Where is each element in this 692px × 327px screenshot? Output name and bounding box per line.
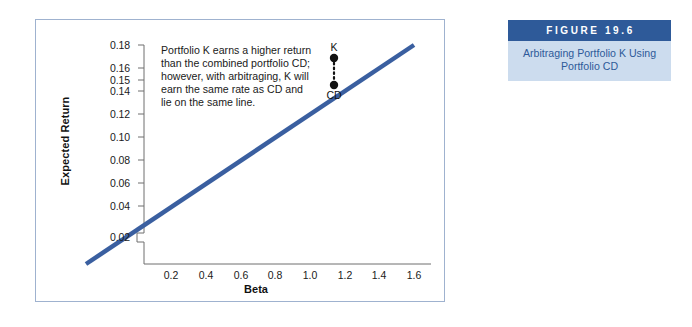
xtick-label-3: 0.8 [260, 269, 290, 281]
data-point-cd[interactable] [330, 81, 338, 89]
xtick-label-7: 1.6 [399, 269, 429, 281]
xtick-label-1: 0.4 [191, 269, 221, 281]
y-axis-title: Expected Return [59, 86, 71, 196]
ytick-label-9: 0.02 [96, 231, 130, 243]
ytick-label-7: 0.06 [96, 177, 130, 189]
xtick-label-0: 0.2 [156, 269, 186, 281]
x-axis-title: Beta [196, 283, 316, 295]
xtick-label-5: 1.2 [330, 269, 360, 281]
xtick-label-4: 1.0 [295, 269, 325, 281]
ytick-label-5: 0.10 [96, 131, 130, 143]
ytick-label-8: 0.04 [96, 200, 130, 212]
ytick-label-1: 0.16 [96, 62, 130, 74]
ytick-label-4: 0.12 [96, 108, 130, 120]
xtick-label-2: 0.6 [226, 269, 256, 281]
figure-caption-card: FIGURE 19.6 Arbitraging Portfolio K Usin… [508, 20, 671, 81]
figure-number-header: FIGURE 19.6 [508, 20, 671, 41]
chart-annotation: Portfolio K earns a higher return than t… [161, 44, 313, 109]
ytick-label-3: 0.14 [96, 85, 130, 97]
y-axis-ticks [138, 45, 144, 206]
y-axis-break-mark [137, 233, 144, 264]
chart-panel: 0.18 0.16 0.15 0.14 0.12 0.10 0.08 0.06 … [35, 19, 445, 302]
data-point-k[interactable] [330, 54, 338, 62]
ytick-label-6: 0.08 [96, 154, 130, 166]
xtick-label-6: 1.4 [364, 269, 394, 281]
point-label-k: K [319, 41, 349, 53]
point-label-cd: CD [319, 89, 349, 101]
ytick-label-0: 0.18 [96, 39, 130, 51]
figure-caption-text: Arbitraging Portfolio K Using Portfolio … [508, 41, 671, 81]
